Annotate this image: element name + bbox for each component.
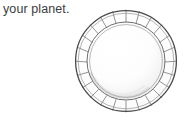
plate-drawing <box>72 6 180 118</box>
plate-illustration <box>72 6 180 118</box>
page-canvas: your planet. <box>0 0 190 125</box>
caption-text: your planet. <box>3 2 70 17</box>
